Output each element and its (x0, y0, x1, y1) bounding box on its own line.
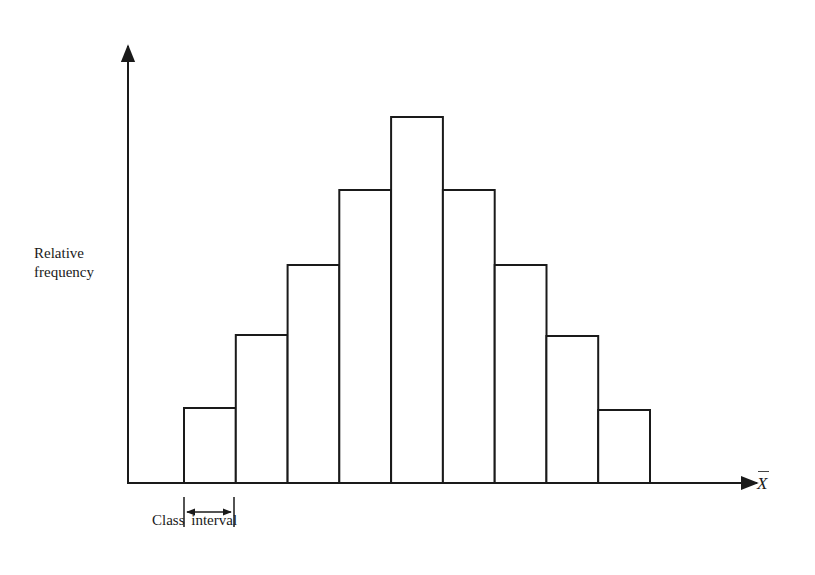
histogram-bar-8 (546, 336, 598, 483)
y-axis-label: Relative frequency (34, 244, 94, 282)
x-axis-label-text: X (757, 474, 767, 493)
histogram-bar-9 (598, 410, 650, 483)
histogram-chart (0, 0, 815, 575)
class-interval-label: Class interval (152, 512, 237, 529)
x-axis-label: X (757, 474, 767, 494)
y-axis-label-line1: Relative (34, 244, 94, 263)
histogram-bars (184, 117, 650, 483)
y-axis-label-line2: frequency (34, 263, 94, 282)
histogram-bar-2 (236, 335, 288, 483)
histogram-bar-3 (288, 265, 340, 483)
histogram-bar-4 (339, 190, 391, 483)
overbar-mark (758, 471, 769, 472)
histogram-bar-7 (495, 265, 547, 483)
histogram-bar-5 (391, 117, 443, 483)
histogram-bar-6 (443, 190, 495, 483)
histogram-bar-1 (184, 408, 236, 483)
